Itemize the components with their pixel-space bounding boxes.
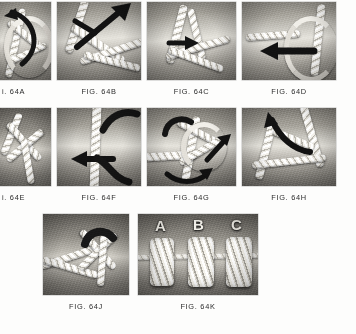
figure-caption-64B: FIG. 64B xyxy=(57,87,141,96)
photo-vignette xyxy=(242,108,336,186)
figure-panel-64A[interactable] xyxy=(0,2,51,80)
photo-vignette xyxy=(57,108,141,186)
figure-panel-64F[interactable] xyxy=(57,108,141,186)
figure-caption-64G: FIG. 64G xyxy=(147,193,236,202)
figure-caption-64A: i. 64A xyxy=(2,87,62,96)
figure-caption-64H: FIG. 64H xyxy=(242,193,336,202)
figure-panel-64E[interactable] xyxy=(0,108,51,186)
figure-panel-64B[interactable] xyxy=(57,2,141,80)
figure-image-64K: A B C xyxy=(138,214,258,295)
figure-image-64A xyxy=(0,2,51,80)
figure-panel-64K[interactable]: A B C xyxy=(138,214,258,295)
figure-panel-64D[interactable] xyxy=(242,2,336,80)
figure-caption-64C: FIG. 64C xyxy=(147,87,236,96)
figure-caption-64F: FIG. 64F xyxy=(57,193,141,202)
figure-caption-64J: FIG. 64J xyxy=(43,302,129,311)
figure-image-64G xyxy=(147,108,236,186)
figure-caption-64D: FIG. 64D xyxy=(242,87,336,96)
figure-caption-64E: i. 64E xyxy=(2,193,62,202)
figure-image-64H xyxy=(242,108,336,186)
photo-vignette xyxy=(138,214,258,295)
figure-caption-64K: FIG. 64K xyxy=(138,302,258,311)
figure-image-64F xyxy=(57,108,141,186)
figure-image-64J xyxy=(43,214,129,295)
figure-page: i. 64A FIG. 64B xyxy=(0,0,356,334)
figure-panel-64J[interactable] xyxy=(43,214,129,295)
figure-panel-64H[interactable] xyxy=(242,108,336,186)
photo-vignette xyxy=(0,2,51,80)
figure-image-64C xyxy=(147,2,236,80)
photo-vignette xyxy=(147,2,236,80)
photo-vignette xyxy=(0,108,51,186)
photo-vignette xyxy=(43,214,129,295)
figure-image-64B xyxy=(57,2,141,80)
photo-vignette xyxy=(147,108,236,186)
figure-image-64D xyxy=(242,2,336,80)
photo-vignette xyxy=(57,2,141,80)
photo-vignette xyxy=(242,2,336,80)
figure-panel-64C[interactable] xyxy=(147,2,236,80)
figure-image-64E xyxy=(0,108,51,186)
figure-panel-64G[interactable] xyxy=(147,108,236,186)
